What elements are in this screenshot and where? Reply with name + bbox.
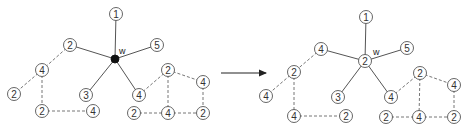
w-vertex-label: w: [372, 47, 380, 57]
graph-node: 4: [260, 90, 273, 103]
graph-node: 4: [87, 105, 100, 118]
graph-node: 4: [288, 110, 301, 123]
graph-node: 2: [8, 88, 21, 101]
graph-after: 2w15424344224242: [260, 11, 461, 124]
center-node-w: 2: [359, 55, 372, 68]
graph-transformation-diagram: w15242342424242 2w15424344224242: [0, 0, 470, 129]
node-label: 2: [131, 108, 137, 119]
node-label: 2: [67, 40, 73, 51]
graph-node: 2: [288, 66, 301, 79]
node-label: 1: [113, 9, 119, 20]
graph-node: 4: [36, 64, 49, 77]
solid-edge: [70, 45, 115, 59]
graph-node: 4: [315, 43, 328, 56]
graph-node: 4: [197, 76, 210, 89]
graph-node: 2: [197, 107, 210, 120]
node-label: 5: [154, 40, 160, 51]
node-label: 4: [291, 111, 297, 122]
graph-node: 2: [162, 64, 175, 77]
node-label: 3: [335, 92, 341, 103]
node-label: 2: [39, 106, 45, 117]
graph-node: 3: [80, 89, 93, 102]
graph-node: 4: [385, 91, 398, 104]
node-label: 2: [343, 111, 349, 122]
center-node-w: [111, 55, 119, 63]
node-label: 2: [200, 108, 206, 119]
node-label: 2: [11, 89, 17, 100]
node-label: 3: [83, 90, 89, 101]
node-label: 2: [383, 112, 389, 123]
node-label: 4: [451, 80, 457, 91]
graph-node: 1: [110, 8, 123, 21]
graph-node: 4: [448, 79, 461, 92]
node-label: 2: [291, 67, 297, 78]
graph-node: 5: [151, 39, 164, 52]
graph-node: 4: [133, 89, 146, 102]
graph-node: 3: [332, 91, 345, 104]
node-label: 4: [200, 77, 206, 88]
node-label: 4: [136, 90, 142, 101]
node-label: 4: [263, 91, 269, 102]
graph-node: 5: [401, 42, 414, 55]
node-label: 4: [90, 106, 96, 117]
graph-node: 2: [340, 110, 353, 123]
w-vertex-label: w: [118, 46, 126, 56]
node-label: 4: [318, 44, 324, 55]
graph-node: 4: [413, 111, 426, 124]
graph-node: 2: [64, 39, 77, 52]
node-label: 4: [416, 112, 422, 123]
graph-node: 2: [414, 67, 427, 80]
node-label: 4: [165, 108, 171, 119]
graph-node: 2: [380, 111, 393, 124]
node-label: 1: [363, 12, 369, 23]
graph-node: 2: [448, 111, 461, 124]
node-label: 5: [404, 43, 410, 54]
node-label: 2: [165, 65, 171, 76]
graph-node: 2: [128, 107, 141, 120]
node-label: 4: [388, 92, 394, 103]
node-label: 4: [39, 65, 45, 76]
graph-node: 2: [36, 105, 49, 118]
node-label: 2: [417, 68, 423, 79]
graph-before: w15242342424242: [8, 8, 210, 120]
graph-node: 4: [162, 107, 175, 120]
node-label: 2: [451, 112, 457, 123]
graph-node: 1: [360, 11, 373, 24]
node-label: 2: [362, 56, 368, 67]
